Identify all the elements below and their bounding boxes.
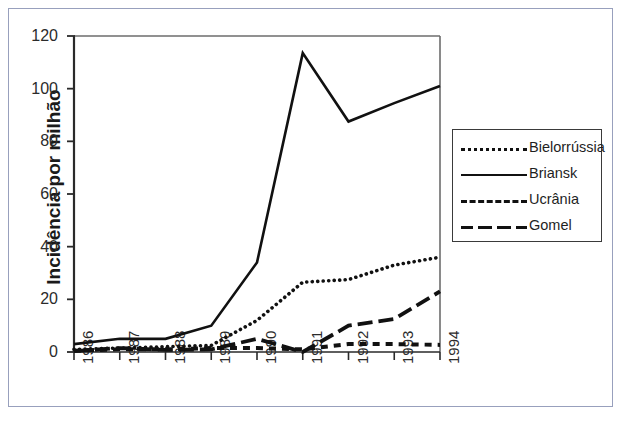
legend-item-label: Briansk (529, 165, 577, 181)
legend-item[interactable]: Bielorrússia (453, 136, 603, 162)
axis-tick-marks (67, 36, 440, 360)
series-line-gomel (74, 291, 440, 352)
legend-line-swatch (461, 174, 527, 176)
line-chart: Incidência por milhão 020406080100120 19… (0, 0, 625, 423)
legend-line-swatch (461, 148, 527, 151)
legend-item[interactable]: Ucrânia (453, 188, 603, 214)
legend-line-swatch (461, 200, 527, 203)
series-line-briansk (74, 53, 440, 344)
legend: BielorrússiaBrianskUcrâniaGomel (452, 129, 602, 242)
data-series-group (74, 53, 440, 352)
axis-lines (74, 36, 440, 352)
legend-item-label: Gomel (529, 217, 572, 233)
legend-line-swatch (461, 226, 527, 229)
legend-item[interactable]: Briansk (453, 162, 603, 188)
legend-item-label: Ucrânia (529, 191, 579, 207)
series-line-bielorrssia (74, 257, 440, 349)
legend-item-label: Bielorrússia (529, 139, 605, 155)
legend-item[interactable]: Gomel (453, 214, 603, 240)
